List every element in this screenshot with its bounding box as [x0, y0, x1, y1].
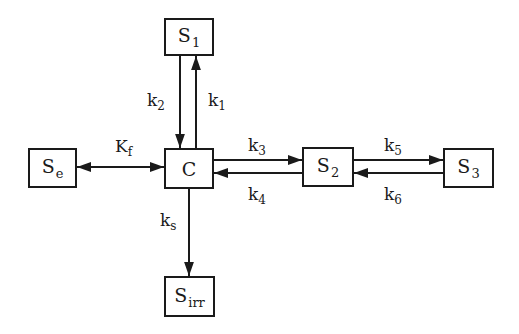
- node-s3: S3: [443, 148, 494, 188]
- label-kf: Kf: [115, 138, 132, 158]
- node-c-label: C: [182, 158, 197, 180]
- node-s1-label: S1: [178, 24, 200, 50]
- label-k5: k5: [384, 137, 402, 157]
- node-sirr: Sirr: [164, 276, 215, 317]
- label-k4: k4: [248, 186, 266, 206]
- node-s2-label: S2: [317, 154, 339, 180]
- node-s1: S1: [164, 18, 214, 56]
- node-se-label: Se: [42, 155, 64, 181]
- label-k1: k1: [208, 92, 226, 112]
- node-s2: S2: [302, 147, 354, 187]
- label-k2: k2: [147, 92, 165, 112]
- arrows-layer: [0, 0, 519, 334]
- node-sirr-label: Sirr: [174, 284, 205, 310]
- label-ks: ks: [160, 212, 176, 232]
- label-k6: k6: [384, 186, 402, 206]
- node-c: C: [164, 148, 214, 189]
- node-se: Se: [28, 148, 77, 188]
- node-s3-label: S3: [457, 155, 479, 181]
- label-k3: k3: [248, 137, 266, 157]
